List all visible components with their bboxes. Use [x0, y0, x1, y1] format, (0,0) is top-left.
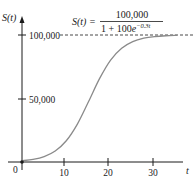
- x-tick-label-20: 20: [103, 168, 113, 178]
- origin-point: [20, 160, 24, 164]
- x-axis-label: t: [186, 165, 189, 176]
- y-tick-label-50000: 50,000: [29, 95, 55, 105]
- x-tick-label-30: 30: [148, 168, 158, 178]
- logistic-chart: S(t) t 100,000 50,000 0 10 20 30 S(t) = …: [0, 0, 195, 190]
- y-axis-label: S(t): [2, 12, 17, 24]
- formula-annotation: S(t) = 100,000 1 + 100e−0.3t: [72, 9, 163, 34]
- y-axis-arrow-icon: [20, 16, 25, 23]
- x-tick-label-0: 0: [13, 165, 18, 175]
- formula-exponent: −0.3t: [136, 22, 151, 29]
- x-tick-label-10: 10: [59, 168, 69, 178]
- formula-numerator: 100,000: [116, 9, 149, 20]
- formula-denominator: 1 + 100e−0.3t: [101, 22, 151, 35]
- y-tick-label-100000: 100,000: [29, 31, 60, 41]
- formula-denominator-prefix: 1 + 100: [101, 23, 132, 34]
- formula-lhs: S(t) =: [72, 16, 96, 28]
